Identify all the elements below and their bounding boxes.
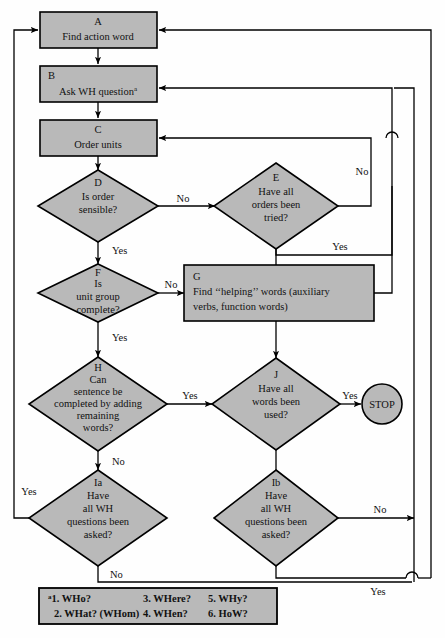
node-ib-line-1: all WH [261, 503, 292, 514]
svg-text:Ask WH questiona: Ask WH questiona [59, 85, 138, 97]
node-f-line-2: complete? [76, 304, 119, 315]
node-e-line-0: Have all [258, 186, 293, 197]
node-h-line-4: words? [83, 422, 114, 433]
node-e-line-1: orders been [252, 199, 301, 210]
node-e-id: E [273, 172, 279, 183]
node-h-id: H [94, 362, 102, 373]
node-ia[interactable]: Ia Have all WH questions been asked? [29, 470, 167, 566]
node-f-id: F [95, 267, 101, 278]
label-e-yes: Yes [332, 241, 347, 252]
legend-box: a1. WHo? 2. WHat? (WHom) 3. WHere? 4. WH… [39, 588, 277, 624]
node-e[interactable]: E Have all orders been tried? [214, 163, 338, 249]
node-stop-label: STOP [369, 399, 395, 410]
label-h-yes: Yes [182, 390, 197, 401]
svg-text:a1. WHo?: a1. WHo? [48, 593, 91, 604]
node-j-line-2: used? [264, 409, 288, 420]
label-f-no: No [165, 279, 178, 290]
node-b[interactable]: B Ask WH questiona [40, 66, 157, 102]
label-d-yes: Yes [112, 245, 127, 256]
node-g[interactable]: G Find ‘‘helping’’ words (auxiliary verb… [184, 265, 374, 321]
inner-right-riser [394, 88, 414, 582]
node-b-id: B [48, 70, 55, 81]
node-d[interactable]: D Is order sensible? [38, 170, 158, 242]
node-h-line-2: completed by adding [54, 398, 143, 409]
node-g-id: G [193, 271, 201, 282]
node-h-line-3: remaining [77, 410, 120, 421]
node-f[interactable]: F Is unit group complete? [38, 264, 158, 322]
node-ib-line-0: Have [265, 490, 287, 501]
line-hop-arc-bottom [406, 572, 418, 578]
node-ib-line-2: questions been [245, 516, 308, 527]
edge-ib-yes-to-outer-riser [276, 566, 406, 578]
label-f-yes: Yes [112, 332, 127, 343]
node-d-id: D [94, 177, 102, 188]
label-d-no: No [177, 193, 190, 204]
node-h-line-0: Can [90, 374, 108, 385]
node-f-line-0: Is [94, 278, 102, 289]
node-ib[interactable]: Ib Have all WH questions been asked? [214, 470, 338, 566]
legend-item-0: 1. WHo? [52, 593, 91, 604]
node-g-line-0: Find ‘‘helping’’ words (auxiliary [193, 286, 331, 298]
node-c-line-0: Order units [74, 139, 122, 150]
edge-ia-yes-to-a [14, 30, 38, 518]
legend-item-2: 3. WHere? [143, 593, 191, 604]
node-ia-line-2: questions been [67, 516, 130, 527]
node-a-line-0: Find action word [62, 31, 134, 42]
node-ia-line-1: all WH [83, 503, 114, 514]
node-h-line-1: sentence be [74, 386, 123, 397]
node-j-line-1: words been [252, 396, 301, 407]
node-a[interactable]: A Find action word [40, 12, 157, 48]
legend-item-3: 4. WHen? [143, 608, 188, 619]
nodes: A Find action word B Ask WH questiona C … [29, 12, 402, 566]
node-c[interactable]: C Order units [40, 120, 157, 156]
node-e-line-2: tried? [264, 212, 288, 223]
node-d-line-0: Is order [82, 191, 115, 202]
label-h-no: No [112, 456, 125, 467]
label-ib-no: No [374, 504, 387, 515]
legend-item-1: 2. WHat? (WHom) [54, 608, 140, 620]
node-g-line-1: verbs, function words) [193, 301, 288, 313]
label-j-yes: Yes [342, 390, 357, 401]
flowchart-canvas: A Find action word B Ask WH questiona C … [0, 0, 445, 638]
flowchart-page: A Find action word B Ask WH questiona C … [0, 0, 445, 638]
label-e-no: No [356, 166, 369, 177]
node-j[interactable]: J Have all words been used? [212, 358, 340, 450]
node-stop[interactable]: STOP [362, 384, 402, 424]
node-c-id: C [94, 124, 101, 135]
node-b-line-0: Ask WH question [59, 86, 135, 97]
node-j-id: J [274, 369, 278, 380]
label-ib-yes: Yes [370, 586, 385, 597]
node-d-line-1: sensible? [79, 204, 118, 215]
node-a-id: A [94, 16, 102, 27]
node-f-line-1: unit group [76, 291, 119, 302]
edge-ia-no-to-right-riser [98, 566, 412, 582]
node-ib-line-3: asked? [262, 529, 291, 540]
label-ia-no: No [110, 569, 123, 580]
node-h[interactable]: H Can sentence be completed by adding re… [29, 357, 167, 451]
node-ia-line-3: asked? [84, 529, 113, 540]
legend-item-5: 6. HoW? [208, 608, 248, 619]
node-ia-line-0: Have [87, 490, 109, 501]
node-j-line-0: Have all [258, 383, 293, 394]
label-ia-yes: Yes [21, 486, 36, 497]
node-ia-id: Ia [94, 477, 102, 488]
legend-item-4: 5. WHy? [208, 593, 247, 604]
node-ib-id: Ib [272, 477, 281, 488]
